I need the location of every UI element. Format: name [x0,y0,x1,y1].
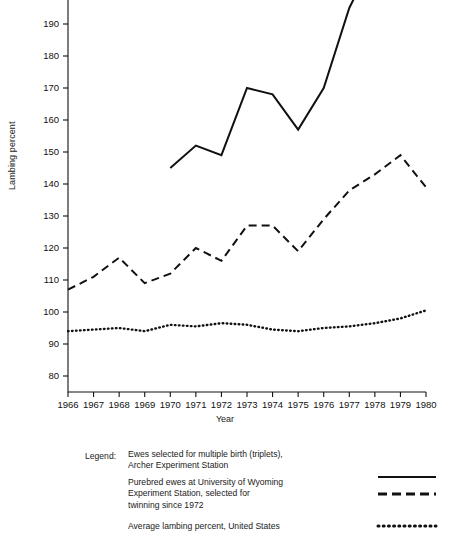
legend-entry-wyoming-line3: twinning since 1972 [128,500,438,511]
x-tick-label: 1978 [364,399,385,410]
x-tick-label: 1973 [236,399,257,410]
x-tick-label: 1980 [415,399,436,410]
x-tick-label: 1971 [185,399,206,410]
x-tick-label: 1970 [160,399,181,410]
series-line-us-average [68,310,426,331]
legend-entry-archer-line2: Archer Experiment Station [128,460,438,471]
y-tick-label: 160 [43,114,59,125]
legend-title: Legend: [85,451,116,461]
x-tick-label: 1966 [57,399,78,410]
chart-plot-area: Lambing percent Year 8090100110120130140… [0,0,450,435]
line-chart-svg: 8090100110120130140150160170180190200210… [0,0,450,435]
y-axis-ticks: 8090100110120130140150160170180190200210 [43,0,68,381]
y-tick-label: 100 [43,306,59,317]
y-tick-label: 120 [43,242,59,253]
lambing-percent-figure: Lambing percent Year 8090100110120130140… [0,0,450,541]
x-tick-label: 1975 [288,399,309,410]
x-axis-ticks: 1966196719681969197019711972197319741975… [57,392,436,410]
y-tick-label: 150 [43,146,59,157]
legend-swatch-dotted [376,521,438,531]
y-tick-label: 170 [43,82,59,93]
x-tick-label: 1969 [134,399,155,410]
x-tick-label: 1977 [339,399,360,410]
legend-swatch-dashed [376,489,438,499]
legend-entry-wyoming: Purebred ewes at University of Wyoming E… [128,477,438,511]
x-tick-label: 1976 [313,399,334,410]
series-line-wyoming [68,155,426,289]
y-tick-label: 130 [43,210,59,221]
y-tick-label: 90 [48,338,59,349]
x-tick-label: 1979 [390,399,411,410]
y-tick-label: 80 [48,370,59,381]
axis-frame [68,0,426,392]
y-tick-label: 180 [43,50,59,61]
y-tick-label: 110 [44,274,59,285]
y-tick-label: 140 [43,178,59,189]
y-tick-label: 190 [43,18,59,29]
series-line-archer [170,0,426,168]
legend-entry-wyoming-line1: Purebred ewes at University of Wyoming [128,477,438,488]
x-tick-label: 1968 [109,399,130,410]
legend-entry-us-average: Average lambing percent, United States [128,521,438,532]
x-tick-label: 1972 [211,399,232,410]
x-tick-label: 1974 [262,399,283,410]
legend-entry-archer-line1: Ewes selected for multiple birth (triple… [128,449,438,460]
legend-entry-archer: Ewes selected for multiple birth (triple… [128,449,438,472]
chart-legend: Legend: Ewes selected for multiple birth… [0,443,450,541]
x-tick-label: 1967 [83,399,104,410]
